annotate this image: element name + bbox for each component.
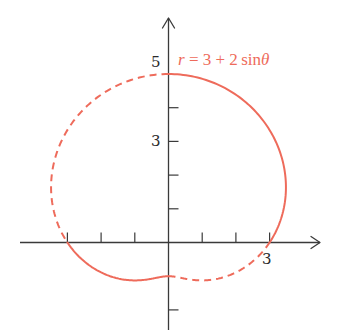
y-tick-label-3: 3 xyxy=(151,132,161,150)
equation-label: r = 3 + 2 sinθ xyxy=(178,50,269,69)
x-tick-label-3: 3 xyxy=(262,250,272,268)
curve-segment-solid xyxy=(169,74,286,243)
equation-body: = 3 + 2 sin xyxy=(185,50,262,69)
polar-plot: 3 3 5 r = 3 + 2 sinθ xyxy=(0,0,350,331)
curve-segment-dashed xyxy=(169,243,270,281)
curve-segment-dashed xyxy=(51,74,168,243)
curve-segment-solid xyxy=(67,243,168,281)
equation-theta: θ xyxy=(261,50,269,69)
y-tick-label-5: 5 xyxy=(151,53,161,71)
